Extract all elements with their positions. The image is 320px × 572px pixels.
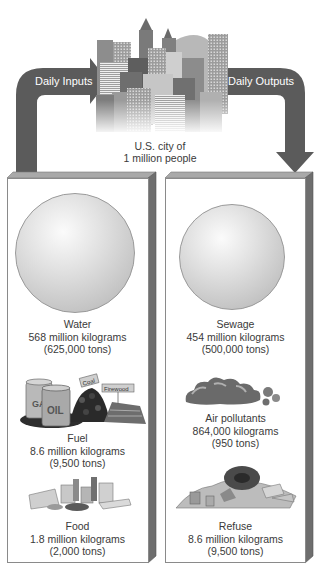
item-name: Food [7,520,148,533]
item-tons: (500,000 tons) [165,343,306,356]
output-item-refuse: Refuse 8.6 million kilograms (9,500 tons… [165,520,306,558]
item-name: Refuse [165,520,306,533]
item-amount: 568 million kilograms [7,331,148,344]
refuse-pile-icon [172,458,302,514]
item-name: Air pollutants [165,412,306,425]
fuel-icon: GA OIL Coal Firewood [12,370,152,430]
item-tons: (625,000 tons) [7,343,148,356]
item-name: Fuel [7,432,148,445]
water-sphere-icon [15,193,135,313]
output-item-sewage: Sewage 454 million kilograms (500,000 to… [165,318,306,356]
item-amount: 454 million kilograms [165,331,306,344]
output-item-air-pollutants: Air pollutants 864,000 kilograms (950 to… [165,412,306,450]
smoke-cloud-icon [180,372,290,412]
food-icon [25,475,135,515]
svg-text:Firewood: Firewood [104,386,129,392]
input-item-fuel: Fuel 8.6 million kilograms (9,500 tons) [7,432,148,470]
item-name: Sewage [165,318,306,331]
svg-text:OIL: OIL [47,405,64,416]
item-tons: (950 tons) [165,437,306,450]
item-tons: (9,500 tons) [165,545,306,558]
sewage-sphere-icon [179,204,285,310]
item-name: Water [7,318,148,331]
input-item-food: Food 1.8 million kilograms (2,000 tons) [7,520,148,558]
item-amount: 8.6 million kilograms [165,533,306,546]
item-amount: 8.6 million kilograms [7,445,148,458]
item-amount: 864,000 kilograms [165,425,306,438]
item-amount: 1.8 million kilograms [7,533,148,546]
item-tons: (9,500 tons) [7,457,148,470]
input-item-water: Water 568 million kilograms (625,000 ton… [7,318,148,356]
item-tons: (2,000 tons) [7,545,148,558]
